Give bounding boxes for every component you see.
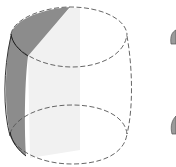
second-surface-partial-bottom xyxy=(171,116,176,134)
barrel-diagram xyxy=(0,0,176,167)
second-surface-partial-top xyxy=(171,30,176,44)
barrel-right-side xyxy=(127,36,132,134)
